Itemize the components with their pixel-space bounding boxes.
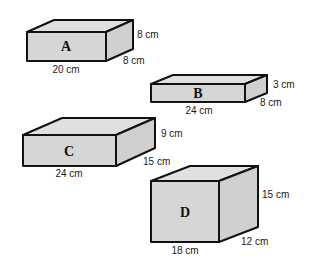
diagram-svg: A B C D 8 cm 8 cm 20 cm 3 cm 8 cm 24 cm … — [0, 0, 312, 265]
box-d-depth-label: 12 cm — [241, 236, 268, 247]
box-d-height-label: 15 cm — [262, 189, 289, 200]
box-b-depth-label: 8 cm — [260, 97, 282, 108]
box-d-letter: D — [180, 205, 190, 220]
box-d-length-label: 18 cm — [171, 245, 198, 256]
box-b-height-label: 3 cm — [273, 79, 295, 90]
box-c-depth-label: 15 cm — [143, 156, 170, 167]
box-c — [23, 118, 155, 166]
box-a-length-label: 20 cm — [52, 64, 79, 75]
cuboid-diagram: A B C D 8 cm 8 cm 20 cm 3 cm 8 cm 24 cm … — [0, 0, 312, 265]
box-a — [27, 20, 133, 61]
box-a-height-label: 8 cm — [137, 29, 159, 40]
box-c-height-label: 9 cm — [161, 128, 183, 139]
box-b-letter: B — [193, 86, 202, 101]
box-a-letter: A — [61, 39, 72, 54]
box-b-length-label: 24 cm — [185, 105, 212, 116]
box-c-letter: C — [64, 144, 74, 159]
box-c-length-label: 24 cm — [55, 168, 82, 179]
box-a-depth-label: 8 cm — [123, 55, 145, 66]
box-d — [151, 166, 258, 242]
box-b — [151, 75, 267, 102]
